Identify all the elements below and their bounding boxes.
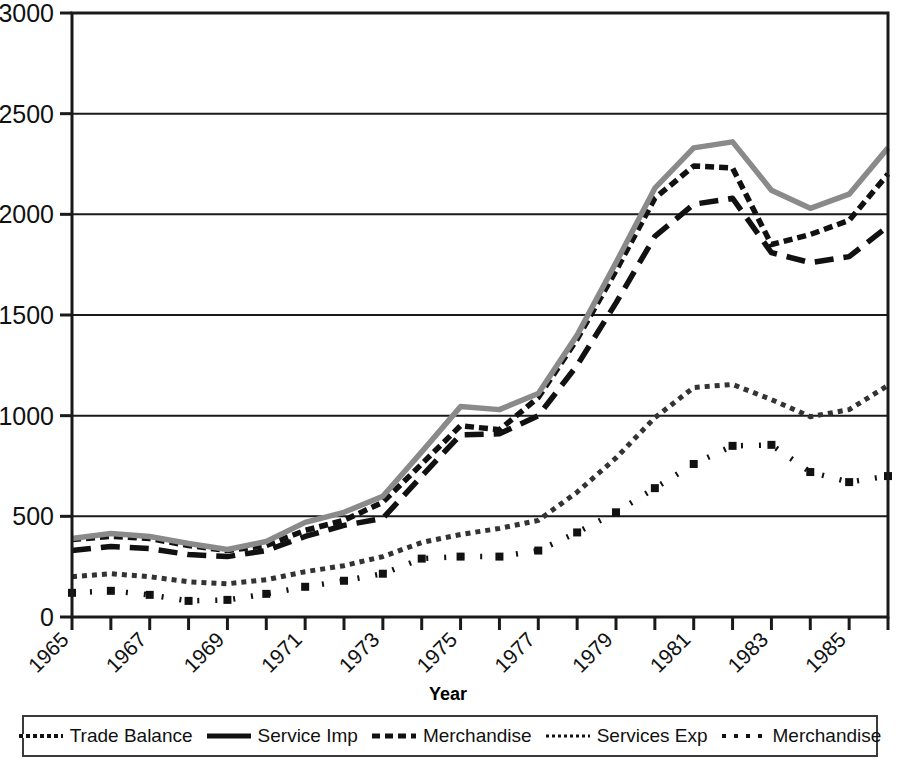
svg-text:1000: 1000 (0, 402, 54, 430)
series-marker (573, 528, 581, 536)
svg-text:1981: 1981 (645, 628, 694, 677)
legend-item-label: Services Exp (597, 725, 708, 747)
series-marker (457, 553, 465, 561)
fine-dotted-swatch (19, 731, 63, 741)
legend-item[interactable]: Service Imp (207, 725, 358, 747)
y-axis-ticks (60, 13, 72, 617)
svg-text:1983: 1983 (723, 628, 772, 677)
series-marker (223, 596, 231, 604)
series-marker (379, 570, 387, 578)
series-marker (845, 478, 853, 486)
legend-item[interactable]: Trade Balance (19, 725, 193, 747)
y-axis-tick-labels: 050010001500200025003000 (0, 0, 54, 631)
chart-legend: Trade Balance Service Imp Merchandise Se… (22, 715, 878, 757)
svg-text:1977: 1977 (490, 628, 539, 677)
svg-text:1979: 1979 (568, 628, 617, 677)
chart-page: 050010001500200025003000 196519671969197… (0, 0, 900, 776)
series-marker (146, 591, 154, 599)
x-axis-tick-labels: 1965196719691971197319751977197919811983… (24, 628, 850, 677)
legend-item[interactable]: Merchandise (722, 725, 882, 747)
series-marker (107, 587, 115, 595)
svg-text:0: 0 (40, 603, 54, 631)
svg-text:1965: 1965 (24, 628, 73, 677)
svg-text:500: 500 (12, 502, 54, 530)
svg-text:1969: 1969 (179, 628, 228, 677)
svg-text:1975: 1975 (412, 628, 461, 677)
x-axis-title: Year (429, 684, 467, 700)
series-marker (495, 553, 503, 561)
svg-text:1985: 1985 (801, 628, 850, 677)
series-marker (612, 508, 620, 516)
svg-text:1971: 1971 (257, 628, 306, 677)
series-marker (301, 583, 309, 591)
series-marker (534, 547, 542, 555)
svg-text:2000: 2000 (0, 200, 54, 228)
legend-item-label: Service Imp (258, 725, 358, 747)
series-marker (651, 484, 659, 492)
legend-item-label: Merchandise (773, 725, 882, 747)
series-marker (185, 597, 193, 605)
svg-text:2500: 2500 (0, 100, 54, 128)
series-line (72, 445, 888, 601)
sparse-dotted-swatch (722, 731, 766, 741)
series-marker (690, 460, 698, 468)
legend-item-label: Merchandise (423, 725, 532, 747)
legend-item[interactable]: Merchandise (372, 725, 532, 747)
series-marker (418, 555, 426, 563)
series-marker (729, 442, 737, 450)
solid-swatch (207, 731, 251, 741)
chart-canvas: 050010001500200025003000 196519671969197… (0, 0, 900, 700)
series-line (72, 142, 888, 550)
gridlines (72, 114, 888, 517)
svg-text:1500: 1500 (0, 301, 54, 329)
dotted-swatch (546, 731, 590, 741)
x-axis-ticks (72, 617, 888, 630)
svg-text:1973: 1973 (334, 628, 383, 677)
dashed-swatch (372, 731, 416, 741)
legend-item-label: Trade Balance (70, 725, 193, 747)
svg-text:3000: 3000 (0, 0, 54, 27)
data-series-layer (68, 142, 892, 605)
series-marker (806, 468, 814, 476)
svg-text:1967: 1967 (101, 628, 150, 677)
series-line (72, 198, 888, 556)
series-line (72, 166, 888, 551)
legend-item[interactable]: Services Exp (546, 725, 708, 747)
series-marker (767, 441, 775, 449)
line-chart-svg: 050010001500200025003000 196519671969197… (0, 0, 900, 700)
series-marker (340, 577, 348, 585)
series-marker (262, 590, 270, 598)
